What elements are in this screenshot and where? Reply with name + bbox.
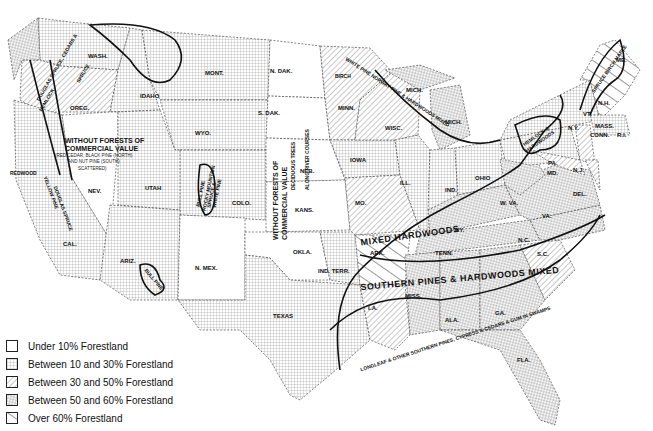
svg-text:WASH.: WASH. — [88, 53, 108, 59]
svg-text:MICH.: MICH. — [406, 87, 423, 93]
svg-text:BIRCH: BIRCH — [335, 73, 351, 79]
legend-item-over-60: Over 60% Forestland — [6, 409, 226, 427]
svg-text:TENN.: TENN. — [435, 250, 453, 256]
legend-label: Under 10% Forestland — [28, 341, 128, 352]
svg-text:ARK.: ARK. — [370, 250, 385, 256]
svg-text:DEL.: DEL. — [573, 191, 587, 197]
swatch-grid-icon — [6, 358, 18, 370]
svg-text:AND NUT PINE (SOUTH): AND NUT PINE (SOUTH) — [68, 159, 120, 164]
svg-text:WITHOUT FORESTS OF: WITHOUT FORESTS OF — [65, 137, 145, 144]
svg-text:MO.: MO. — [355, 200, 367, 206]
svg-text:S. DAK.: S. DAK. — [258, 110, 280, 116]
region-wash — [38, 18, 130, 70]
svg-text:CONN.: CONN. — [590, 132, 610, 138]
svg-text:R.I.: R.I. — [617, 132, 627, 138]
svg-text:N. MEX.: N. MEX. — [195, 265, 218, 271]
svg-text:REDWOOD: REDWOOD — [10, 170, 37, 176]
swatch-diagonal-icon — [6, 376, 18, 388]
svg-text:ALONG RIVER COURSES: ALONG RIVER COURSES — [304, 128, 310, 190]
svg-text:COLO.: COLO. — [232, 200, 251, 206]
map-legend: Under 10% Forestland Between 10 and 30% … — [6, 337, 226, 427]
region-wyo — [160, 100, 268, 150]
svg-text:IDAHO: IDAHO — [140, 93, 160, 99]
svg-text:S.C.: S.C. — [537, 251, 549, 257]
svg-text:ARIZ.: ARIZ. — [120, 258, 136, 264]
svg-text:FLA.: FLA. — [517, 357, 531, 363]
legend-item-10-30: Between 10 and 30% Forestland — [6, 355, 226, 373]
svg-text:WITHOUT FORESTS OF: WITHOUT FORESTS OF — [272, 160, 279, 240]
svg-text:UTAH: UTAH — [145, 185, 161, 191]
svg-text:VA.: VA. — [542, 213, 552, 219]
legend-label: Over 60% Forestland — [28, 413, 123, 424]
svg-text:WISC.: WISC. — [385, 125, 403, 131]
swatch-wide-diagonal-icon — [6, 412, 18, 424]
svg-text:MD.: MD. — [547, 170, 558, 176]
svg-text:OKLA.: OKLA. — [293, 249, 312, 255]
legend-label: Between 50 and 60% Forestland — [28, 395, 173, 406]
svg-text:SCATTERED): SCATTERED) — [78, 166, 107, 171]
svg-text:PA.: PA. — [548, 160, 558, 166]
svg-text:ILL.: ILL. — [400, 180, 411, 186]
svg-text:TEXAS: TEXAS — [273, 313, 293, 319]
svg-text:MASS.: MASS. — [595, 123, 614, 129]
region-fla — [440, 330, 560, 425]
svg-text:WYO.: WYO. — [195, 130, 211, 136]
svg-text:IND.: IND. — [445, 187, 457, 193]
legend-item-30-50: Between 30 and 50% Forestland — [6, 373, 226, 391]
region-colo — [180, 150, 266, 220]
svg-text:MINN.: MINN. — [338, 105, 355, 111]
legend-item-50-60: Between 50 and 60% Forestland — [6, 391, 226, 409]
svg-text:ALA.: ALA. — [445, 317, 459, 323]
svg-text:N.H.: N.H. — [598, 100, 610, 106]
svg-text:N.J.: N.J. — [573, 167, 584, 173]
svg-text:COMMERCIAL VALUE: COMMERCIAL VALUE — [65, 145, 139, 152]
region-ariz — [100, 205, 180, 300]
svg-text:N. DAK.: N. DAK. — [270, 68, 293, 74]
swatch-blank-icon — [6, 340, 18, 352]
region-mont — [142, 30, 270, 100]
svg-text:W. VA.: W. VA. — [500, 200, 519, 206]
svg-text:IND. TERR.: IND. TERR. — [318, 268, 350, 274]
svg-text:VT.: VT. — [583, 111, 592, 117]
legend-label: Between 30 and 50% Forestland — [28, 377, 173, 388]
svg-text:(RED CEDAR, BLACK PINE (NORTH): (RED CEDAR, BLACK PINE (NORTH) — [55, 153, 133, 158]
swatch-speckle-icon — [6, 394, 18, 406]
svg-text:LA.: LA. — [368, 305, 378, 311]
svg-text:IOWA: IOWA — [350, 157, 367, 163]
svg-text:MONT.: MONT. — [205, 70, 224, 76]
svg-text:MISS.: MISS. — [405, 293, 422, 299]
svg-text:DECIDUOUS TREES: DECIDUOUS TREES — [290, 141, 296, 190]
svg-text:KANS.: KANS. — [295, 207, 314, 213]
svg-text:COMMERCIAL VALUE: COMMERCIAL VALUE — [281, 166, 288, 240]
legend-item-under-10: Under 10% Forestland — [6, 337, 226, 355]
svg-text:OHIO: OHIO — [475, 175, 491, 181]
svg-text:GA.: GA. — [495, 310, 506, 316]
svg-text:CAL.: CAL. — [63, 241, 77, 247]
svg-text:N.Y.: N.Y. — [568, 125, 579, 131]
svg-text:OREG.: OREG. — [70, 105, 90, 111]
legend-label: Between 10 and 30% Forestland — [28, 359, 173, 370]
region-sdak — [266, 96, 330, 140]
region-nmex — [178, 215, 245, 300]
svg-text:N.C.: N.C. — [518, 237, 530, 243]
svg-text:NEV.: NEV. — [88, 188, 102, 194]
